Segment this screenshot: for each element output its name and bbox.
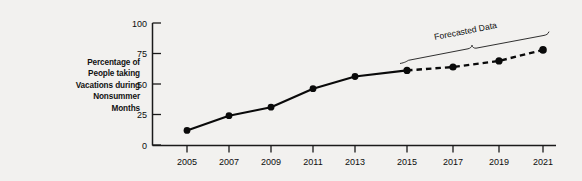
x-tick-label-2011: 2011 [303,157,322,167]
x-tick-label-2017: 2017 [443,157,463,167]
data-point-2005 [184,127,191,134]
x-tick-label-2019: 2019 [489,157,509,167]
data-point-2009 [268,104,275,111]
series-forecast-line [407,50,543,71]
x-tick-label-2015: 2015 [397,157,417,167]
forecast-brace-icon [400,32,549,64]
series-actual-line [187,70,407,130]
data-point-2015 [403,67,410,74]
data-point-2017 [449,63,456,70]
y-axis-ticks [153,23,162,145]
brace-path [400,32,549,64]
x-axis-ticks [187,146,543,153]
data-point-2011 [310,85,317,92]
y-tick-label-100: 100 [132,19,147,29]
x-tick-label-2009: 2009 [261,157,281,167]
x-axis-tick-labels: 2005 2007 2009 2011 2013 2015 2017 2019 … [177,157,553,167]
series-data-markers [184,46,547,134]
forecast-annotation-label: Forecasted Data [433,20,497,42]
x-tick-label-2013: 2013 [345,157,365,167]
y-axis-label: Percentage of People taking Vacations du… [22,57,140,114]
y-tick-label-0: 0 [142,141,147,151]
y-axis-label-line-1: Percentage of [22,57,140,68]
y-axis-label-line-2: People taking [22,68,140,79]
data-point-2007 [226,112,233,119]
x-tick-label-2005: 2005 [177,157,197,167]
y-axis-label-line-4: Nonsummer [22,91,140,102]
chart-figure: Percentage of People taking Vacations du… [0,0,582,181]
x-tick-label-2021: 2021 [533,157,553,167]
data-point-2013 [352,73,359,80]
y-axis-label-line-5: Months [22,103,140,114]
y-axis-label-line-3: Vacations during [22,80,140,91]
data-point-2019 [495,57,502,64]
data-point-2021 [539,46,547,54]
x-tick-label-2007: 2007 [219,157,239,167]
